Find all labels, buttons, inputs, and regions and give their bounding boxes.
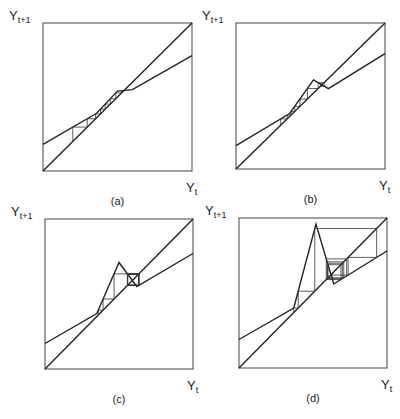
x-axis-label: Yt: [186, 180, 198, 197]
y-axis-label: Yt+1: [9, 8, 30, 25]
panel-d: Yt+1Yt(d): [205, 203, 393, 404]
panel-b: Yt+1Yt(b): [202, 8, 391, 205]
x-axis-label: Yt: [379, 178, 391, 195]
map-curve: [45, 254, 193, 344]
panel-caption: (c): [113, 393, 126, 405]
forty-five-degree-line: [43, 23, 192, 171]
forty-five-degree-line: [236, 23, 385, 169]
panel-caption: (d): [306, 392, 319, 404]
figure-canvas: Yt+1Yt(a)Yt+1Yt(b)Yt+1Yt(c)Yt+1Yt(d): [0, 0, 400, 419]
map-curve: [43, 56, 192, 145]
panel-caption: (a): [111, 195, 124, 207]
y-axis-label: Yt+1: [205, 203, 226, 220]
panel-c: Yt+1Yt(c): [11, 204, 199, 405]
forty-five-degree-line: [239, 218, 387, 368]
map-curve: [236, 54, 385, 146]
panel-a: Yt+1Yt(a): [9, 8, 198, 207]
y-axis-label: Yt+1: [11, 204, 32, 221]
y-axis-label: Yt+1: [202, 8, 223, 25]
x-axis-label: Yt: [187, 378, 199, 395]
panel-caption: (b): [304, 193, 317, 205]
forty-five-degree-line: [45, 219, 193, 369]
x-axis-label: Yt: [381, 377, 393, 394]
